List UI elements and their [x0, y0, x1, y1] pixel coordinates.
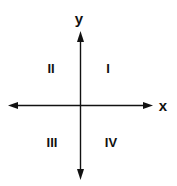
quadrant-label-III: III	[47, 135, 58, 150]
quadrant-label-I: I	[106, 61, 110, 76]
y-axis-down-arrow-icon	[77, 169, 84, 180]
x-axis-left-arrow-icon	[8, 102, 18, 109]
quadrant-label-IV: IV	[105, 135, 118, 150]
quadrant-label-II: II	[47, 61, 54, 76]
x-axis-label: x	[159, 97, 168, 114]
y-axis-label: y	[75, 10, 84, 27]
coordinate-plane: y x I II III IV	[0, 0, 177, 186]
y-axis-up-arrow-icon	[77, 31, 84, 42]
x-axis-right-arrow-icon	[143, 102, 153, 109]
